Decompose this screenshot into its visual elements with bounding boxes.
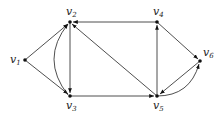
edge-v5-v2: [72, 24, 157, 96]
edge-v4-v6: [157, 22, 198, 59]
edge-v1-v3: [25, 60, 68, 94]
node-v6: [198, 59, 202, 63]
label-v1: v1: [10, 53, 21, 67]
node-v1: [23, 58, 27, 62]
directed-graph: v1 v2 v3 v4 v5 v6: [0, 0, 220, 117]
node-v3: [68, 94, 72, 98]
edge-v6-v5: [160, 61, 200, 94]
edge-v1-v2: [25, 24, 68, 60]
node-v2: [68, 20, 72, 24]
label-v3: v3: [66, 99, 77, 113]
label-v4: v4: [153, 5, 164, 19]
node-v4: [155, 20, 159, 24]
label-v6: v6: [203, 46, 214, 60]
label-v5: v5: [153, 99, 164, 113]
node-v5: [155, 94, 159, 98]
label-v2: v2: [66, 5, 77, 19]
